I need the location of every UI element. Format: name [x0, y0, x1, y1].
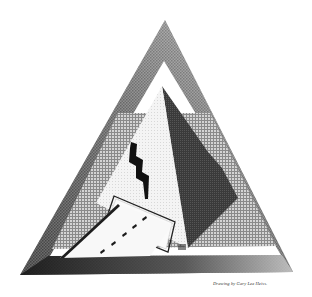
pyramid-illustration [0, 0, 312, 297]
illustration-credit: Drawing by Gary Lee Heiss. [213, 281, 267, 286]
